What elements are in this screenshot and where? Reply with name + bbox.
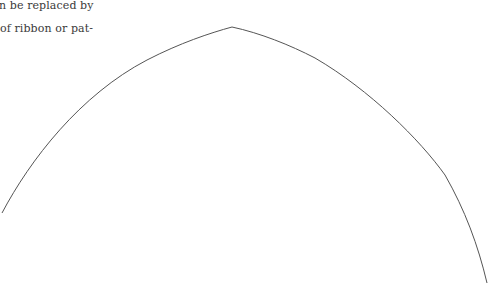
arch-left-curve [2, 27, 232, 213]
arch-right-curve [232, 27, 487, 283]
pointed-arch-illustration [0, 0, 490, 283]
